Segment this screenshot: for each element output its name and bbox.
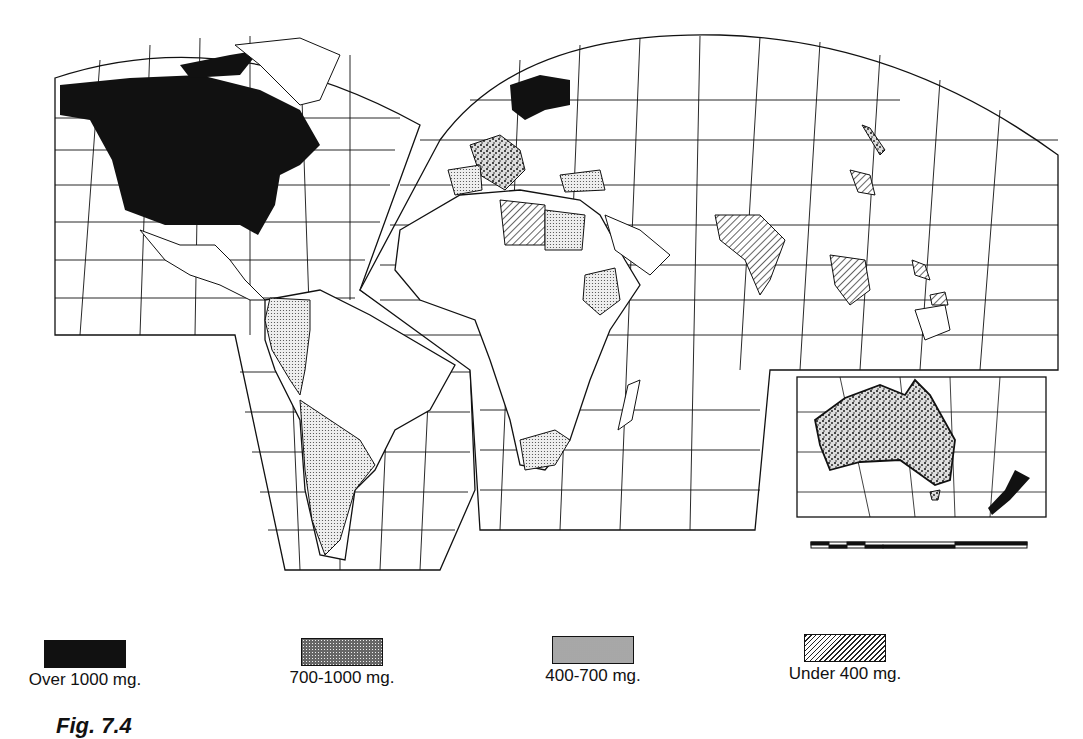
libya-under-400 xyxy=(500,200,545,245)
egypt-400-700 xyxy=(545,210,585,250)
australia-inset xyxy=(797,377,1046,517)
legend-swatch-fine-stipple xyxy=(552,636,634,664)
legend-over-1000: Over 1000 mg. xyxy=(20,640,150,690)
legend-under-400: Under 400 mg. xyxy=(770,634,920,684)
figure-caption: Fig. 7.4 xyxy=(56,713,132,739)
legend-swatch-solid-black xyxy=(44,640,126,668)
legend-label: 400-700 mg. xyxy=(523,666,663,686)
tasmania xyxy=(930,490,940,500)
scale-bar xyxy=(811,542,1027,548)
legend-700-1000: 700-1000 mg. xyxy=(272,638,412,688)
legend-label: Over 1000 mg. xyxy=(20,670,150,690)
legend-swatch-diagonal-hatch xyxy=(804,634,886,662)
legend-label: 700-1000 mg. xyxy=(272,668,412,688)
legend-label: Under 400 mg. xyxy=(770,664,920,684)
world-map xyxy=(0,0,1083,620)
legend-swatch-coarse-stipple xyxy=(301,638,383,666)
legend-400-700: 400-700 mg. xyxy=(523,636,663,686)
